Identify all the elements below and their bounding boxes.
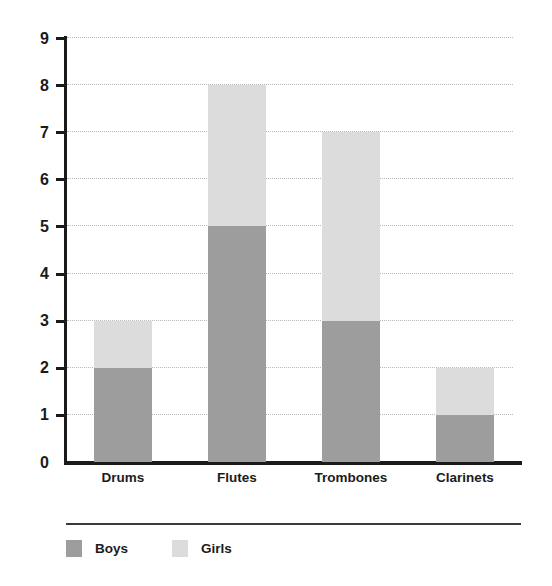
y-axis-tick: 8 bbox=[56, 84, 65, 87]
legend-swatch-girls bbox=[172, 540, 188, 557]
x-axis-label-clarinets: Clarinets bbox=[436, 471, 494, 485]
y-axis-tick-label: 2 bbox=[40, 360, 49, 376]
bar-segment-boys bbox=[322, 321, 380, 462]
bar-segment-boys bbox=[208, 226, 266, 462]
x-axis-label-flutes: Flutes bbox=[217, 471, 257, 485]
y-axis-tick: 9 bbox=[56, 37, 65, 40]
bar-segment-girls bbox=[322, 132, 380, 320]
legend-divider bbox=[66, 523, 521, 525]
y-axis-tick-label: 5 bbox=[40, 219, 49, 235]
bar-segment-girls bbox=[436, 368, 494, 415]
y-axis-tick: 4 bbox=[56, 273, 65, 276]
bar-clarinets bbox=[436, 38, 494, 462]
y-axis-tick-label: 4 bbox=[40, 266, 49, 282]
y-axis-tick-label: 7 bbox=[40, 125, 49, 141]
bar-segment-girls bbox=[208, 85, 266, 226]
legend-item-boys: Boys bbox=[66, 540, 128, 557]
bar-flutes bbox=[208, 38, 266, 462]
y-axis-tick-label: 0 bbox=[40, 455, 49, 471]
y-axis-tick: 7 bbox=[56, 131, 65, 134]
y-axis-tick: 1 bbox=[56, 414, 65, 417]
y-axis-tick-label: 8 bbox=[40, 78, 49, 94]
y-axis-tick: 6 bbox=[56, 178, 65, 181]
bar-segment-boys bbox=[94, 368, 152, 462]
y-axis-tick: 3 bbox=[56, 320, 65, 323]
y-axis-tick-label: 3 bbox=[40, 313, 49, 329]
x-axis-label-drums: Drums bbox=[102, 471, 145, 485]
plot-area bbox=[66, 38, 522, 462]
y-axis-tick: 5 bbox=[56, 225, 65, 228]
legend-label-boys: Boys bbox=[95, 542, 128, 556]
y-axis-tick-label: 9 bbox=[40, 31, 49, 47]
y-axis-tick: 0 bbox=[56, 461, 65, 464]
legend-item-girls: Girls bbox=[172, 540, 232, 557]
chart-legend: BoysGirls bbox=[66, 540, 276, 557]
y-axis-tick-label: 6 bbox=[40, 172, 49, 188]
y-axis-tick: 2 bbox=[56, 367, 65, 370]
bar-segment-boys bbox=[436, 415, 494, 462]
bar-segment-girls bbox=[94, 321, 152, 368]
legend-label-girls: Girls bbox=[201, 542, 232, 556]
x-axis-label-trombones: Trombones bbox=[315, 471, 388, 485]
stacked-bar-chart: 0123456789 DrumsFlutesTrombonesClarinets… bbox=[0, 0, 552, 586]
legend-swatch-boys bbox=[66, 540, 82, 557]
y-axis-tick-label: 1 bbox=[40, 407, 49, 423]
bar-drums bbox=[94, 38, 152, 462]
bar-trombones bbox=[322, 38, 380, 462]
